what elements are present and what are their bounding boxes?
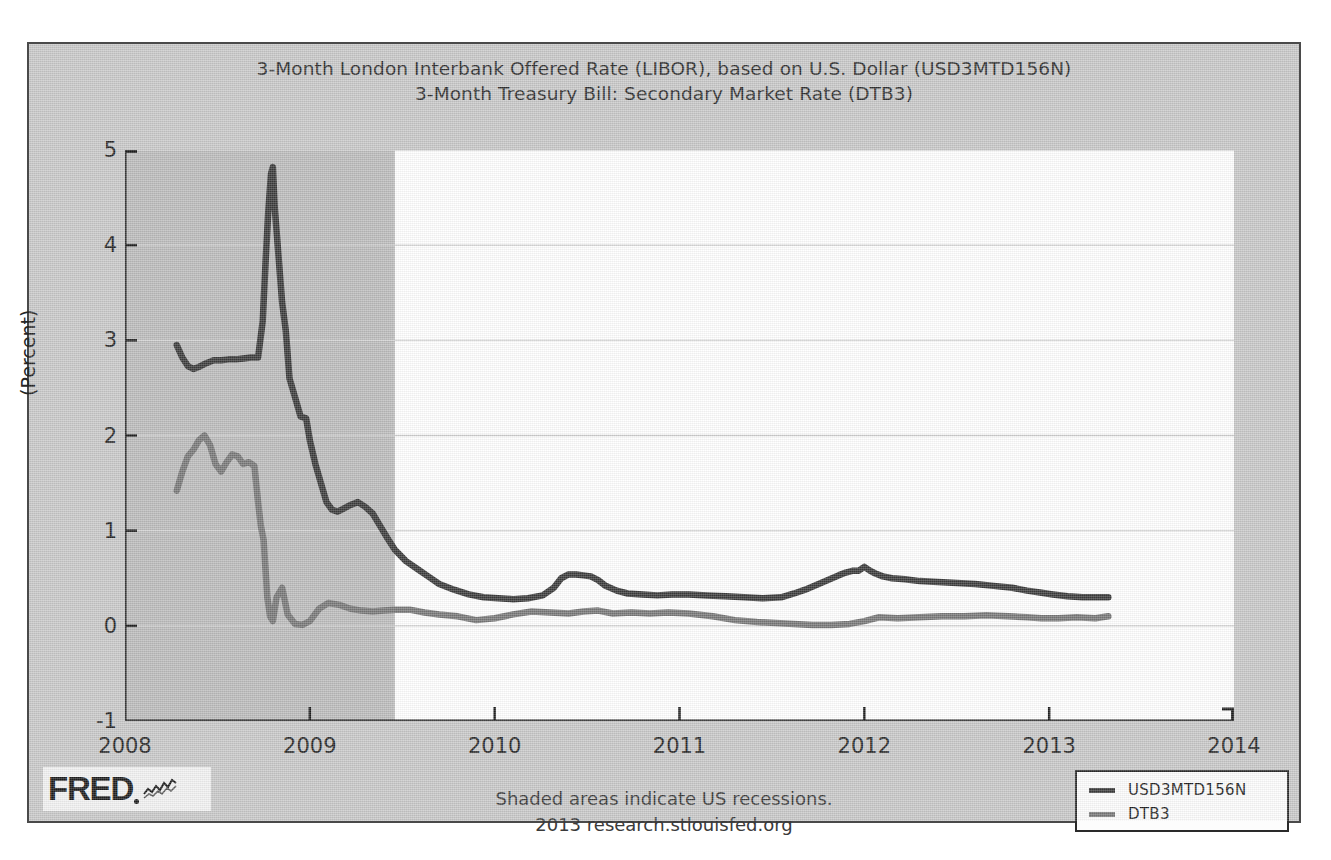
legend-label-usd3mtd156n: USD3MTD156N: [1128, 781, 1246, 799]
plot-wrapper: [125, 150, 1234, 721]
x-tick-label: 2012: [819, 734, 909, 758]
legend-item-dtb3: DTB3: [1089, 802, 1287, 826]
plot-area: [125, 150, 1234, 721]
chart-title-line-1: 3-Month London Interbank Offered Rate (L…: [29, 56, 1299, 81]
fred-chart-squiggle-icon: [143, 777, 177, 799]
legend-swatch-dtb3: [1089, 812, 1115, 817]
fred-wordmark: FRED: [48, 772, 133, 806]
chart-canvas: [125, 150, 1234, 721]
x-tick-label: 2008: [80, 734, 170, 758]
fred-logo: FRED: [43, 767, 211, 811]
chart-legend: USD3MTD156N DTB3: [1075, 770, 1289, 832]
x-tick-label: 2009: [265, 734, 355, 758]
y-tick-label: -1: [83, 709, 117, 733]
chart-title-line-2: 3-Month Treasury Bill: Secondary Market …: [29, 81, 1299, 106]
x-tick-label: 2013: [1004, 734, 1094, 758]
y-axis-tick-labels: -1012345: [81, 150, 117, 721]
y-tick-label: 3: [83, 328, 117, 352]
y-tick-label: 1: [83, 519, 117, 543]
legend-label-dtb3: DTB3: [1128, 805, 1170, 823]
fred-chart-page: 3-Month London Interbank Offered Rate (L…: [0, 0, 1331, 860]
fred-logo-dot: [134, 799, 139, 804]
y-axis-title: (Percent): [17, 310, 39, 396]
x-axis-tick-labels: 2008200920102011201220132014: [125, 734, 1234, 764]
chart-title-block: 3-Month London Interbank Offered Rate (L…: [29, 56, 1299, 106]
x-tick-label: 2014: [1189, 734, 1279, 758]
legend-item-usd3mtd156n: USD3MTD156N: [1089, 778, 1287, 802]
y-tick-label: 2: [83, 424, 117, 448]
legend-swatch-usd3mtd156n: [1089, 788, 1115, 793]
y-tick-label: 0: [83, 614, 117, 638]
x-tick-label: 2011: [635, 734, 725, 758]
chart-frame: 3-Month London Interbank Offered Rate (L…: [27, 42, 1301, 823]
y-tick-label: 4: [83, 233, 117, 257]
y-tick-label: 5: [83, 138, 117, 162]
x-tick-label: 2010: [450, 734, 540, 758]
